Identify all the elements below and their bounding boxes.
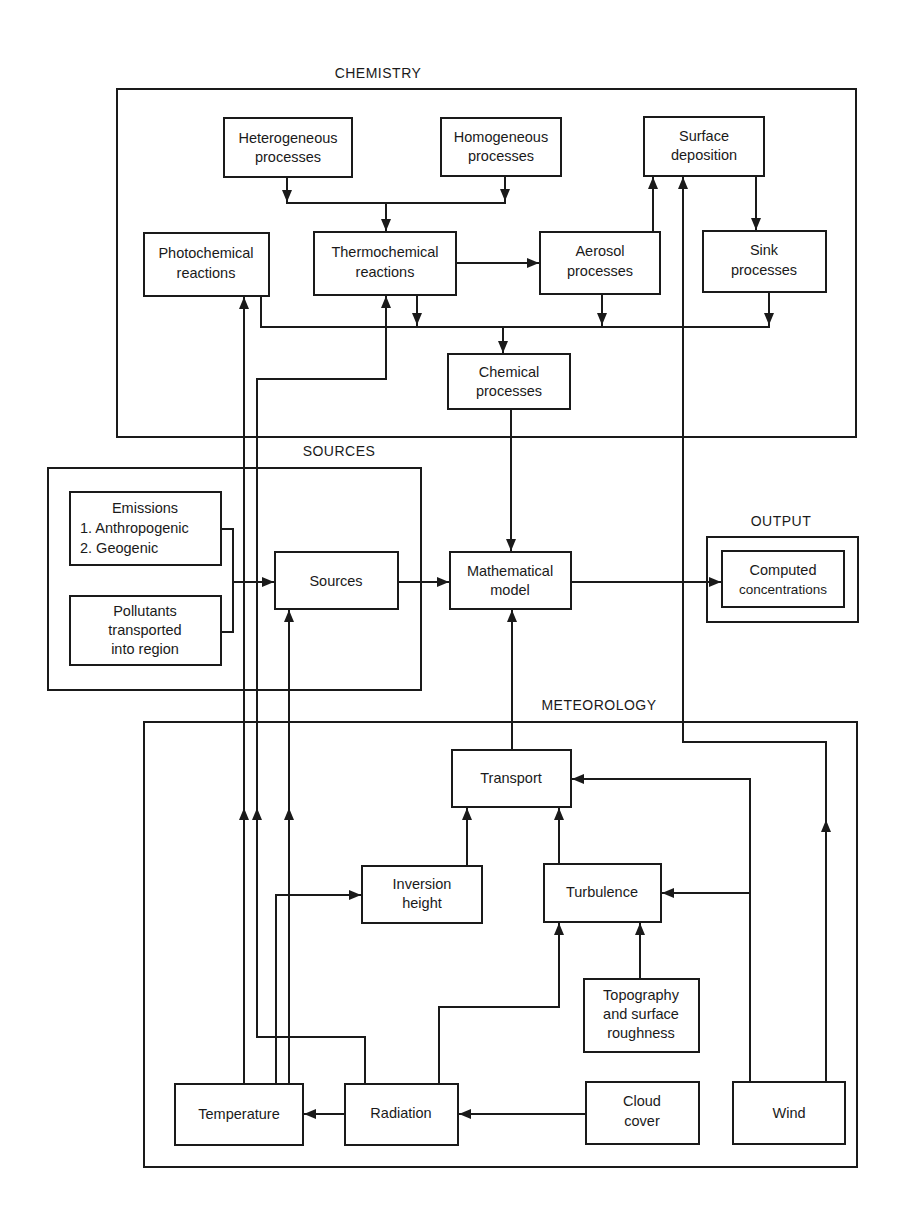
radiation-box: Radiation bbox=[345, 1084, 458, 1145]
cloud-cover-box: Cloud cover bbox=[586, 1082, 699, 1144]
arrow-down-icon bbox=[282, 190, 292, 202]
svg-text:Homogeneous: Homogeneous bbox=[454, 129, 548, 145]
svg-text:transported: transported bbox=[108, 622, 181, 638]
turbulence-box: Turbulence bbox=[544, 864, 661, 922]
svg-text:Radiation: Radiation bbox=[370, 1105, 431, 1121]
svg-text:model: model bbox=[490, 582, 530, 598]
svg-text:and surface: and surface bbox=[603, 1006, 679, 1022]
svg-text:Temperature: Temperature bbox=[198, 1106, 279, 1122]
svg-text:processes: processes bbox=[255, 149, 321, 165]
thermochemical-reactions-box: Thermochemical reactions bbox=[314, 232, 456, 295]
arrow-left-icon bbox=[662, 888, 674, 898]
sources-box: Sources bbox=[275, 552, 398, 609]
svg-text:deposition: deposition bbox=[671, 147, 737, 163]
svg-text:Emissions: Emissions bbox=[112, 500, 178, 516]
svg-text:processes: processes bbox=[476, 383, 542, 399]
wind-box: Wind bbox=[733, 1082, 845, 1144]
svg-text:cover: cover bbox=[624, 1113, 660, 1129]
svg-text:Surface: Surface bbox=[679, 128, 729, 144]
svg-text:Sink: Sink bbox=[750, 242, 779, 258]
svg-text:Pollutants: Pollutants bbox=[113, 603, 177, 619]
transport-box: Transport bbox=[452, 750, 571, 807]
svg-text:Heterogeneous: Heterogeneous bbox=[238, 130, 337, 146]
arrow-up-icon bbox=[648, 177, 658, 189]
arrow-down-icon bbox=[506, 539, 516, 551]
arrow-up-icon bbox=[462, 808, 472, 820]
air-quality-model-diagram: CHEMISTRY SOURCES OUTPUT METEOROLOGY bbox=[0, 0, 908, 1227]
arrow-up-icon bbox=[554, 808, 564, 820]
arrow-down-icon bbox=[764, 313, 774, 325]
svg-text:Thermochemical: Thermochemical bbox=[331, 244, 438, 260]
topography-box: Topography and surface roughness bbox=[584, 979, 699, 1052]
svg-text:Wind: Wind bbox=[772, 1105, 805, 1121]
arrow-up-icon bbox=[252, 808, 262, 820]
svg-text:Inversion: Inversion bbox=[393, 876, 452, 892]
arrow-left-icon bbox=[572, 774, 584, 784]
arrow-up-icon bbox=[554, 923, 564, 935]
mathematical-model-box: Mathematical model bbox=[450, 552, 571, 609]
svg-text:concentrations: concentrations bbox=[739, 582, 827, 597]
svg-text:into region: into region bbox=[111, 641, 179, 657]
arrow-up-icon bbox=[635, 923, 645, 935]
svg-text:Topography: Topography bbox=[603, 987, 680, 1003]
arrow-left-icon bbox=[459, 1109, 471, 1119]
arrow-right-icon bbox=[349, 890, 361, 900]
photochemical-reactions-box: Photochemical reactions bbox=[144, 233, 269, 296]
arrow-up-icon bbox=[381, 296, 391, 308]
arrow-up-icon bbox=[678, 177, 688, 189]
svg-text:height: height bbox=[402, 895, 442, 911]
svg-text:Chemical: Chemical bbox=[479, 364, 539, 380]
heterogeneous-processes-box: Heterogeneous processes bbox=[224, 118, 352, 177]
arrow-down-icon bbox=[751, 218, 761, 230]
connectors bbox=[221, 176, 826, 1114]
arrow-left-icon bbox=[304, 1109, 316, 1119]
output-section-label: OUTPUT bbox=[751, 513, 812, 529]
inversion-height-box: Inversion height bbox=[362, 866, 482, 923]
arrow-down-icon bbox=[597, 313, 607, 325]
svg-text:Sources: Sources bbox=[309, 573, 362, 589]
svg-text:Cloud: Cloud bbox=[623, 1093, 661, 1109]
arrow-down-icon bbox=[381, 219, 391, 231]
computed-concentrations-box: Computed concentrations bbox=[722, 551, 844, 607]
arrow-up-icon bbox=[239, 808, 249, 820]
arrow-up-icon bbox=[821, 820, 831, 832]
chemistry-section-label: CHEMISTRY bbox=[335, 65, 422, 81]
temperature-box: Temperature bbox=[175, 1084, 303, 1145]
arrow-up-icon bbox=[284, 610, 294, 622]
meteorology-section-label: METEOROLOGY bbox=[541, 697, 656, 713]
svg-text:processes: processes bbox=[468, 148, 534, 164]
chemical-processes-box: Chemical processes bbox=[448, 354, 570, 409]
svg-text:processes: processes bbox=[731, 262, 797, 278]
svg-text:Computed: Computed bbox=[750, 562, 817, 578]
svg-text:roughness: roughness bbox=[607, 1025, 675, 1041]
aerosol-processes-box: Aerosol processes bbox=[540, 232, 660, 294]
arrow-down-icon bbox=[498, 341, 508, 353]
arrow-right-icon bbox=[262, 577, 274, 587]
arrowheads bbox=[239, 177, 831, 1119]
arrow-up-icon bbox=[239, 297, 249, 309]
emissions-box: Emissions 1. Anthropogenic 2. Geogenic bbox=[70, 492, 221, 565]
arrow-down-icon bbox=[500, 189, 510, 201]
pollutants-transported-box: Pollutants transported into region bbox=[70, 596, 221, 665]
sources-section-label: SOURCES bbox=[303, 443, 376, 459]
arrow-down-icon bbox=[412, 313, 422, 325]
homogeneous-processes-box: Homogeneous processes bbox=[441, 118, 561, 176]
svg-text:Turbulence: Turbulence bbox=[566, 884, 638, 900]
arrow-right-icon bbox=[527, 258, 539, 268]
surface-deposition-box: Surface deposition bbox=[644, 117, 764, 176]
svg-text:reactions: reactions bbox=[356, 264, 415, 280]
svg-text:1. Anthropogenic: 1. Anthropogenic bbox=[80, 520, 189, 536]
arrow-right-icon bbox=[709, 577, 721, 587]
arrow-up-icon bbox=[284, 808, 294, 820]
sink-processes-box: Sink processes bbox=[703, 231, 826, 292]
svg-text:processes: processes bbox=[567, 263, 633, 279]
arrow-right-icon bbox=[437, 577, 449, 587]
svg-text:2. Geogenic: 2. Geogenic bbox=[80, 540, 158, 556]
arrow-up-icon bbox=[507, 610, 517, 622]
svg-text:Mathematical: Mathematical bbox=[467, 563, 553, 579]
svg-text:Photochemical: Photochemical bbox=[158, 245, 253, 261]
svg-text:Aerosol: Aerosol bbox=[575, 243, 624, 259]
svg-text:Transport: Transport bbox=[480, 770, 542, 786]
svg-text:reactions: reactions bbox=[177, 265, 236, 281]
